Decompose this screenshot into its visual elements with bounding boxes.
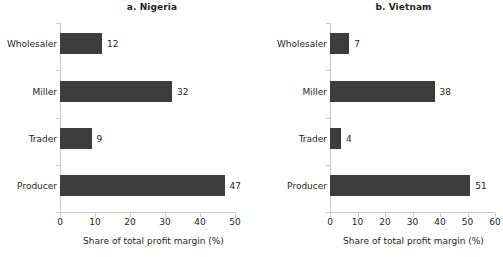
category-label-wholesaler-vietnam: Wholesaler <box>252 39 327 49</box>
panel-nigeria: a. Nigeria 0 10 20 30 40 50 <box>0 0 252 257</box>
bar-value-label: 7 <box>354 39 360 49</box>
panel-title-nigeria: a. Nigeria <box>0 2 252 12</box>
y-tick-nigeria <box>56 165 60 166</box>
x-tick-label-nigeria: 0 <box>57 217 63 227</box>
category-label-wholesaler-nigeria: Wholesaler <box>0 39 57 49</box>
x-tick-label-nigeria: 40 <box>194 217 205 227</box>
category-label-producer-nigeria: Producer <box>0 181 57 191</box>
x-tick-label-vietnam: 10 <box>352 217 363 227</box>
category-label-trader-vietnam: Trader <box>252 134 327 144</box>
bar-producer-nigeria <box>60 175 225 196</box>
bar-value-label: 32 <box>177 87 188 97</box>
x-tick-label-vietnam: 40 <box>434 217 445 227</box>
x-tick-label-nigeria: 20 <box>124 217 135 227</box>
x-tick-label-vietnam: 30 <box>407 217 418 227</box>
category-label-miller-nigeria: Miller <box>0 87 57 97</box>
bar-value-label: 12 <box>107 39 118 49</box>
bar-miller-nigeria <box>60 81 172 102</box>
bar-wholesaler-vietnam <box>330 33 349 54</box>
bar-value-label: 51 <box>475 181 486 191</box>
x-tick-label-vietnam: 20 <box>379 217 390 227</box>
category-label-miller-vietnam: Miller <box>252 87 327 97</box>
x-tick-label-nigeria: 10 <box>89 217 100 227</box>
x-tick-label-vietnam: 60 <box>489 217 500 227</box>
y-tick-vietnam <box>326 165 330 166</box>
category-label-producer-vietnam: Producer <box>252 181 327 191</box>
bar-producer-vietnam <box>330 175 470 196</box>
bar-value-label: 47 <box>230 181 241 191</box>
bar-trader-vietnam <box>330 128 341 149</box>
bar-trader-nigeria <box>60 128 92 149</box>
two-panel-bar-chart-figure: a. Nigeria 0 10 20 30 40 50 <box>0 0 503 257</box>
x-axis-title-nigeria: Share of total profit margin (%) <box>0 236 252 246</box>
y-tick-nigeria <box>56 118 60 119</box>
plot-area-nigeria: 0 10 20 30 40 50 12 32 9 47 <box>60 23 235 213</box>
category-label-trader-nigeria: Trader <box>0 134 57 144</box>
bar-wholesaler-nigeria <box>60 33 102 54</box>
x-tick-label-vietnam: 50 <box>462 217 473 227</box>
panel-title-vietnam: b. Vietnam <box>252 2 503 12</box>
bar-value-label: 9 <box>97 134 103 144</box>
bar-value-label: 38 <box>440 87 451 97</box>
bar-miller-vietnam <box>330 81 435 102</box>
x-tick-label-vietnam: 0 <box>327 217 333 227</box>
y-tick-vietnam <box>326 70 330 71</box>
bar-value-label: 4 <box>346 134 352 144</box>
x-tick-label-nigeria: 30 <box>159 217 170 227</box>
panel-vietnam: b. Vietnam 0 10 20 30 40 50 60 <box>252 0 503 257</box>
y-tick-vietnam <box>326 23 330 24</box>
y-tick-nigeria <box>56 70 60 71</box>
y-tick-vietnam <box>326 118 330 119</box>
x-tick-label-nigeria: 50 <box>229 217 240 227</box>
x-axis-title-vietnam: Share of total profit margin (%) <box>252 236 503 246</box>
y-tick-nigeria <box>56 23 60 24</box>
plot-area-vietnam: 0 10 20 30 40 50 60 7 38 4 51 <box>330 23 495 213</box>
x-axis-line-nigeria <box>60 212 235 213</box>
